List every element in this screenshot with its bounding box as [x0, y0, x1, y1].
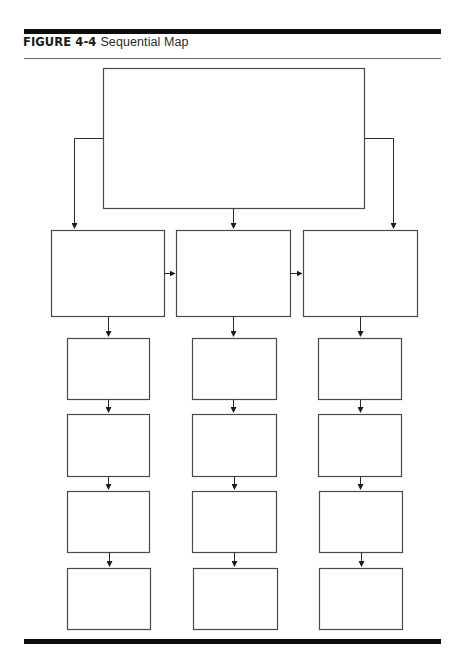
- bottom-rule: [24, 639, 441, 644]
- col2-step-3: [193, 492, 277, 553]
- main-box-2: [177, 231, 291, 317]
- col2-step-2: [193, 415, 277, 477]
- col1-step-2: [68, 415, 150, 477]
- top-box: [104, 69, 365, 209]
- arrow-top-to-main-left: [75, 139, 104, 229]
- col1-step-3: [68, 492, 150, 553]
- arrow-top-to-main-right: [365, 139, 394, 229]
- col3-step-2: [319, 415, 402, 477]
- col2-step-1: [193, 339, 277, 400]
- col3-step-1: [319, 339, 402, 400]
- col1-step-4: [68, 569, 151, 630]
- col3-step-3: [320, 492, 403, 553]
- col2-step-4: [194, 569, 278, 630]
- main-box-3: [304, 231, 418, 317]
- main-box-1: [52, 231, 165, 317]
- col1-step-1: [68, 339, 150, 400]
- col3-step-4: [320, 569, 403, 630]
- sequential-map-diagram: [0, 0, 460, 666]
